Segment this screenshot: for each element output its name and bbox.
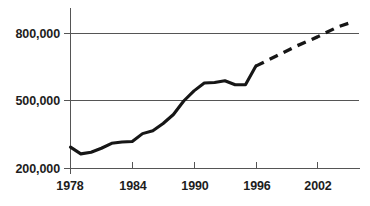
chart-container: 800,000 500,000 200,000 1978 1984 1990 1…: [0, 0, 370, 206]
series-line-projected: [256, 23, 349, 66]
x-axis-label-1990: 1990: [181, 179, 209, 193]
x-axis-label-1978: 1978: [56, 179, 84, 193]
series-line-actual: [71, 66, 256, 154]
y-axis-label-500000: 500,000: [16, 94, 61, 108]
x-tick-marks: [71, 162, 318, 169]
x-axis-label-1984: 1984: [119, 179, 147, 193]
gridlines: [64, 34, 359, 101]
line-chart: 800,000 500,000 200,000 1978 1984 1990 1…: [0, 0, 370, 206]
y-axis-label-200000: 200,000: [16, 162, 61, 176]
x-axis-label-1996: 1996: [243, 179, 271, 193]
x-axis-label-2002: 2002: [304, 179, 332, 193]
y-axis-label-800000: 800,000: [16, 27, 61, 41]
